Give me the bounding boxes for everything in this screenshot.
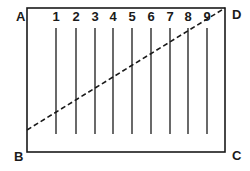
line-number-label-9: 9 [203,9,210,24]
line-number-label-7: 7 [166,9,173,24]
line-number-label-8: 8 [184,9,191,24]
corner-label-d: D [232,7,241,22]
vertical-lines-group [56,28,207,134]
corner-label-a: A [16,9,26,24]
line-number-label-1: 1 [52,9,59,24]
corner-label-c: C [232,148,242,163]
line-number-label-2: 2 [72,9,79,24]
line-number-labels: 123456789 [52,9,210,24]
corner-label-b: B [14,149,23,164]
line-number-label-4: 4 [109,9,117,24]
rectangle-abcd [27,8,225,152]
line-number-label-6: 6 [147,9,154,24]
line-number-label-5: 5 [128,9,135,24]
line-number-label-3: 3 [91,9,98,24]
diagram-canvas: 123456789 A B C D [0,0,250,171]
dashed-diagonal-line [27,8,225,130]
